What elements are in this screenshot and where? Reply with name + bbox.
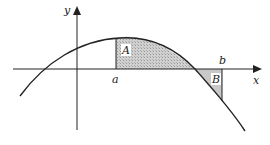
area-diagram: y x a b A B	[0, 0, 270, 145]
x-axis-arrow-icon	[253, 65, 262, 73]
x-axis-label: x	[253, 74, 260, 87]
y-axis-arrow-icon	[73, 6, 81, 15]
point-a-label: a	[112, 73, 119, 86]
y-axis-label: y	[63, 4, 71, 17]
region-a-label: A	[121, 44, 130, 57]
point-b-label: b	[219, 54, 226, 67]
region-b-label: B	[211, 73, 220, 86]
